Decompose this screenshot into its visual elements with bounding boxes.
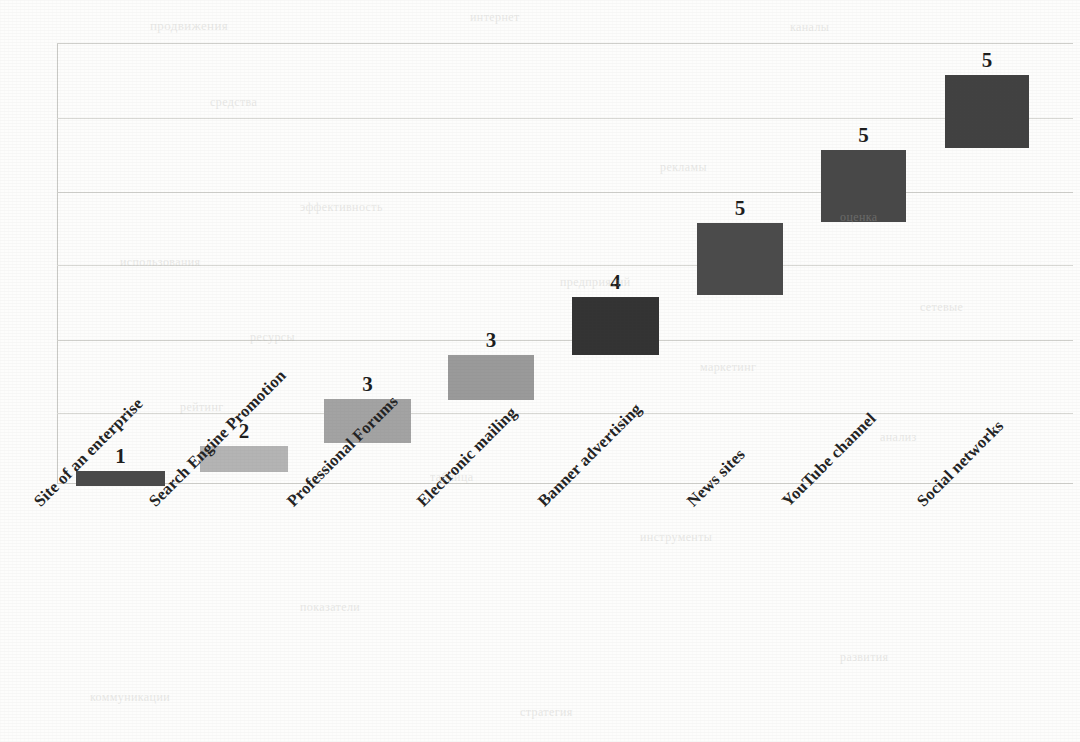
bar-value-label: 4 <box>572 272 659 293</box>
gridline <box>57 265 1073 266</box>
bar <box>697 223 783 295</box>
gridline <box>57 340 1073 341</box>
bar-value-label: 5 <box>697 198 783 219</box>
x-axis-labels: Site of an enterpriseSearch Engine Promo… <box>0 483 1080 713</box>
gridline <box>57 43 1073 44</box>
bar-value-label: 3 <box>324 374 411 395</box>
plot-area: 12334555 <box>57 43 1073 483</box>
bar-value-label: 5 <box>945 50 1029 71</box>
bar <box>572 297 659 355</box>
bar <box>945 75 1029 148</box>
gridline <box>57 118 1073 119</box>
gridline <box>57 192 1073 193</box>
bar <box>448 355 534 400</box>
bar <box>821 150 906 222</box>
bar-chart: 12334555 Site of an enterpriseSearch Eng… <box>0 0 1080 742</box>
bar-value-label: 3 <box>448 330 534 351</box>
gridline <box>57 413 1073 414</box>
bar-value-label: 5 <box>821 125 906 146</box>
